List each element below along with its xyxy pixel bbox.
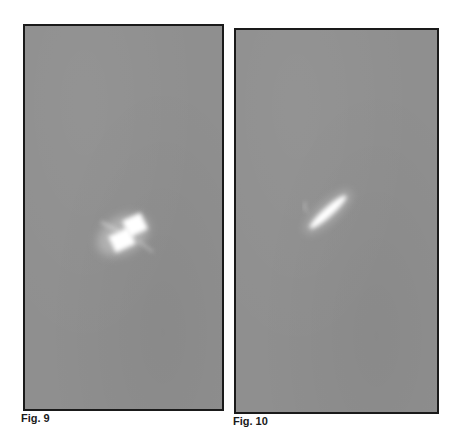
bright-object-rectangular bbox=[25, 26, 224, 411]
figure-9-caption: Fig. 9 bbox=[21, 412, 50, 424]
bright-object-streak bbox=[236, 30, 439, 414]
figure-10-image bbox=[234, 28, 439, 414]
figure-10-caption: Fig. 10 bbox=[233, 415, 268, 427]
figure-9-image bbox=[23, 24, 224, 411]
